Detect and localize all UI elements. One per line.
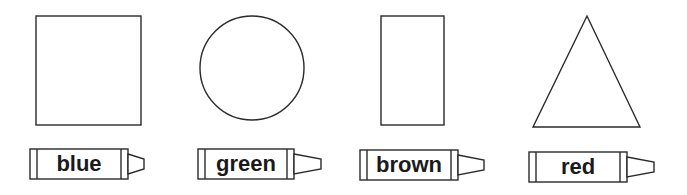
square-icon <box>36 16 141 125</box>
crayon-label-blue: blue <box>37 151 121 177</box>
circle-icon <box>200 16 304 120</box>
crayon-label-green: green <box>205 151 287 177</box>
crayon-label-red: red <box>536 154 620 180</box>
triangle-icon <box>533 16 640 127</box>
crayon-label-brown: brown <box>367 152 451 178</box>
rectangle-icon <box>381 16 444 125</box>
